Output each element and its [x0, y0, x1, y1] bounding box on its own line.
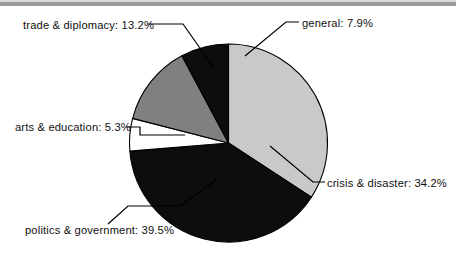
pie-label-general: general: 7.9% — [302, 17, 373, 29]
pie-label-arts-education: arts & education: 5.3% — [15, 121, 131, 133]
pie-label-crisis-disaster: crisis & disaster: 34.2% — [327, 177, 447, 189]
chart-canvas: trade & diplomacy: 13.2% general: 7.9% c… — [0, 0, 464, 257]
pie-label-trade-diplomacy: trade & diplomacy: 13.2% — [23, 19, 154, 31]
pie-slices — [129, 44, 327, 242]
pie-label-politics-government: politics & government: 39.5% — [25, 224, 174, 236]
